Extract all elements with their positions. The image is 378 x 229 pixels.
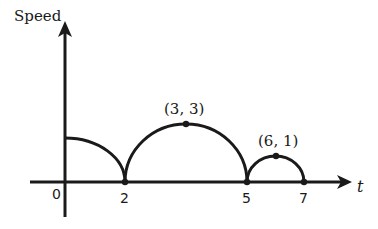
y-axis-label: Speed — [14, 7, 62, 25]
point-6-1 — [273, 153, 279, 159]
tick-label-0: 0 — [52, 186, 61, 202]
x-axis-label: t — [357, 177, 364, 196]
point-5-0 — [244, 179, 250, 185]
arc-2-to-5 — [125, 124, 247, 182]
point-3-3 — [183, 121, 189, 127]
peak-label-6-1: (6, 1) — [258, 132, 298, 150]
tick-label-5: 5 — [242, 190, 251, 206]
tick-label-7: 7 — [299, 190, 308, 206]
point-7-0 — [301, 179, 307, 185]
speed-time-graph: Speed t 0 2 5 7 (3, 3) (6, 1) — [0, 0, 378, 229]
tick-label-2: 2 — [120, 190, 129, 206]
arc-0-to-2 — [65, 138, 125, 182]
arc-5-to-7 — [247, 156, 304, 182]
peak-label-3-3: (3, 3) — [164, 100, 204, 118]
point-2-0 — [122, 179, 128, 185]
